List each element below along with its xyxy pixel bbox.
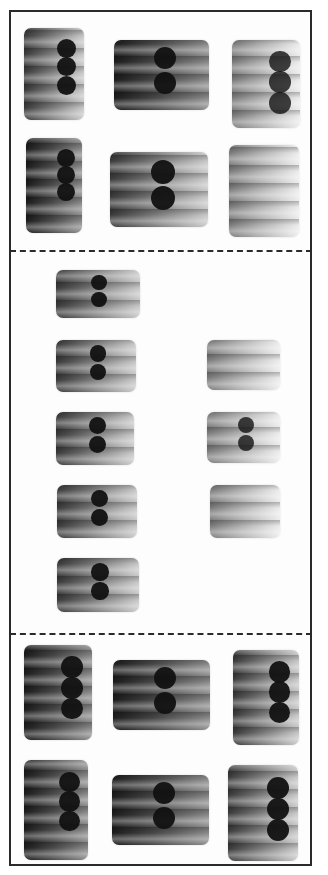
radiograph-film <box>229 145 299 237</box>
tooth-crown-shape <box>154 72 176 94</box>
tooth-crown-shape <box>91 509 108 526</box>
radiograph-film <box>112 775 209 845</box>
tooth-crown-shape <box>59 772 79 792</box>
radiograph-film <box>233 650 299 745</box>
tooth-crown-shape <box>154 667 176 689</box>
tooth-crown-shape <box>57 57 76 76</box>
tooth-crown-shape <box>269 51 291 73</box>
section-divider <box>10 633 312 635</box>
tooth-crown-shape <box>267 819 289 841</box>
radiograph-film <box>24 645 92 740</box>
tooth-crown-shape <box>91 582 108 599</box>
radiograph-film <box>210 485 280 538</box>
tooth-crown-shape <box>59 811 79 831</box>
radiograph-film <box>56 270 140 318</box>
radiograph-film <box>24 760 88 860</box>
tooth-crown-shape <box>90 345 107 362</box>
tooth-crown-shape <box>57 166 75 184</box>
tooth-crown-shape <box>151 160 175 184</box>
radiograph-film <box>113 660 210 730</box>
radiograph-film <box>207 412 280 463</box>
tooth-crown-shape <box>57 76 76 95</box>
radiograph-film <box>56 340 136 392</box>
radiograph-film <box>228 765 298 861</box>
radiograph-film <box>56 412 134 465</box>
radiograph-film <box>114 40 209 110</box>
tooth-crown-shape <box>57 149 75 167</box>
tooth-crown-shape <box>151 186 175 210</box>
tooth-crown-shape <box>153 807 175 829</box>
tooth-crown-shape <box>154 47 176 69</box>
tooth-crown-shape <box>91 275 106 290</box>
tooth-crown-shape <box>89 417 106 434</box>
tooth-crown-shape <box>269 92 291 114</box>
tooth-crown-shape <box>153 782 175 804</box>
tooth-crown-shape <box>91 292 106 307</box>
section-divider <box>10 250 312 252</box>
tooth-crown-shape <box>154 692 176 714</box>
tooth-crown-shape <box>238 435 254 451</box>
tooth-crown-shape <box>61 677 83 699</box>
tooth-crown-shape <box>57 39 76 58</box>
tooth-crown-shape <box>269 661 290 682</box>
tooth-crown-shape <box>89 436 106 453</box>
tooth-crown-shape <box>57 183 75 201</box>
tooth-crown-shape <box>59 791 79 811</box>
radiograph-film <box>110 152 208 227</box>
tooth-crown-shape <box>91 563 108 580</box>
tooth-crown-shape <box>267 777 289 799</box>
tooth-crown-shape <box>269 71 291 93</box>
tooth-crown-shape <box>61 698 83 720</box>
radiograph-film <box>24 28 84 120</box>
tooth-crown-shape <box>269 681 290 702</box>
tooth-crown-shape <box>267 798 289 820</box>
radiograph-film <box>232 40 300 128</box>
tooth-crown-shape <box>90 364 107 381</box>
tooth-crown-shape <box>91 490 108 507</box>
radiograph-film <box>26 138 82 233</box>
tooth-crown-shape <box>269 702 290 723</box>
radiograph-film <box>207 340 280 390</box>
radiograph-film <box>57 558 139 612</box>
tooth-crown-shape <box>61 656 83 678</box>
radiograph-film <box>57 485 137 538</box>
tooth-crown-shape <box>238 417 254 433</box>
